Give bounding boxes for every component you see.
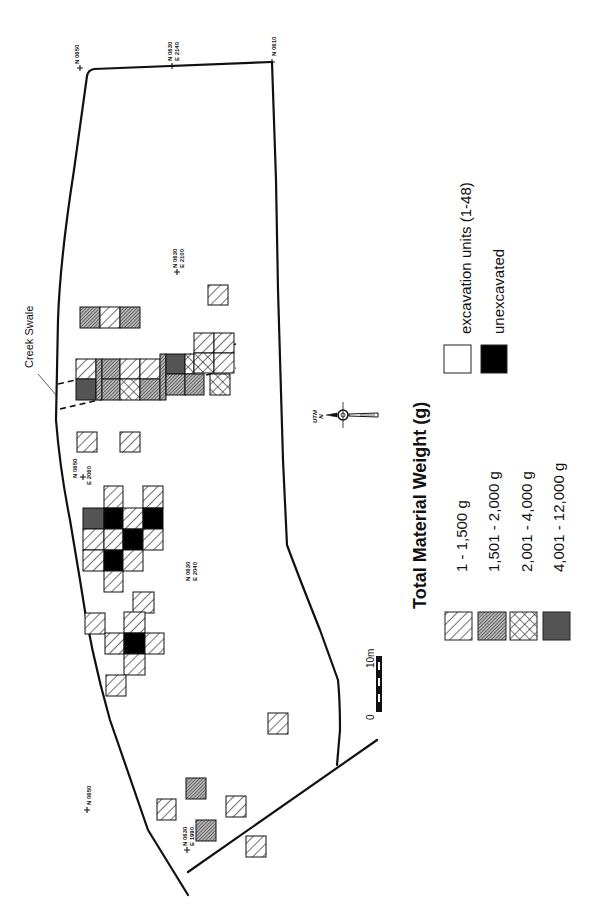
grid-label-n0630-e2140: N 0630E 2140	[167, 42, 181, 61]
utm-label: UTMN	[312, 410, 324, 423]
legend-swatch-unexcavated	[481, 345, 507, 373]
legend-swatch-crosshatch	[510, 612, 537, 640]
grid-label-n0650-bottom: N 0650	[86, 786, 93, 805]
grid-label-n0630-e1990: N 0630E 1990	[182, 827, 196, 846]
site-boundary	[56, 62, 377, 895]
grid-label-n0630-e2040: N 0630E 2040	[185, 562, 199, 581]
north-arrow-icon	[326, 402, 378, 428]
grid-label-n0630-e2100: N 0630E 2100	[172, 249, 186, 268]
grid-crosses	[77, 59, 275, 853]
grid-label-n0650-top: N 0650	[74, 45, 81, 64]
creek-swale-label: Creek Swale	[23, 306, 35, 368]
scale-label-zero: 0	[365, 714, 376, 720]
legend-title: Total Material Weight (g)	[410, 402, 431, 609]
legend-swatch-dark	[543, 612, 570, 640]
legend-label-class-3: 2,001 - 4,000 g	[518, 471, 535, 572]
legend-label-class-2: 1,501 - 2,000 g	[485, 471, 502, 572]
site-map	[0, 0, 590, 909]
scale-label-10m: 10m	[365, 649, 376, 668]
legend-swatch-excavated	[444, 345, 471, 373]
legend-label-class-1: 1 - 1,500 g	[453, 500, 470, 572]
scale-bar	[376, 656, 382, 712]
excavation-units	[76, 285, 288, 857]
legend-swatch-hatch-light	[445, 612, 472, 640]
legend-label-excavated: excavation units (1-48)	[457, 182, 474, 334]
grid-label-n0610: N 0610	[271, 37, 278, 56]
grid-label-e2060: E 2060	[86, 466, 93, 485]
legend-label-unexcavated: unexcavated	[490, 249, 507, 334]
creek-swale-leader	[38, 374, 56, 395]
legend-label-class-4: 4,001 - 12,000 g	[550, 463, 567, 572]
grid-label-n0650-e2060: N 0650	[72, 459, 79, 478]
legend-swatch-hatch-dense	[478, 612, 506, 640]
